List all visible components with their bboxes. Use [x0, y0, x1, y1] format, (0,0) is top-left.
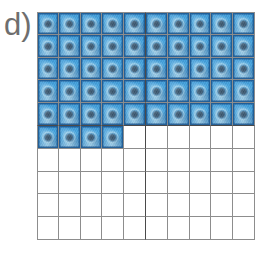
grid-cell-empty[interactable] — [102, 172, 124, 195]
grid-cell-filled[interactable] — [211, 103, 233, 126]
grid-cell-empty[interactable] — [211, 149, 233, 172]
grid-cell-empty[interactable] — [37, 172, 59, 195]
grid-cell-empty[interactable] — [124, 126, 146, 149]
grid-cell-filled[interactable] — [37, 12, 59, 35]
grid-cell-filled[interactable] — [124, 80, 146, 103]
grid-cell-empty[interactable] — [190, 217, 212, 240]
grid-cell-empty[interactable] — [124, 194, 146, 217]
grid-cell-filled[interactable] — [190, 58, 212, 81]
grid-cell-filled[interactable] — [211, 35, 233, 58]
grid-cell-filled[interactable] — [37, 103, 59, 126]
grid-cell-empty[interactable] — [59, 149, 81, 172]
grid-cell-filled[interactable] — [190, 103, 212, 126]
grid-cell-filled[interactable] — [146, 103, 168, 126]
grid-cell-empty[interactable] — [146, 172, 168, 195]
grid-cell-filled[interactable] — [59, 80, 81, 103]
grid-cell-filled[interactable] — [211, 80, 233, 103]
grid-cell-filled[interactable] — [37, 80, 59, 103]
grid-cell-empty[interactable] — [146, 149, 168, 172]
grid-cell-filled[interactable] — [168, 58, 190, 81]
grid-cell-filled[interactable] — [211, 12, 233, 35]
grid-cell-filled[interactable] — [102, 12, 124, 35]
grid-cell-filled[interactable] — [59, 58, 81, 81]
grid-cell-filled[interactable] — [190, 35, 212, 58]
grid-cell-empty[interactable] — [233, 126, 255, 149]
grid-cell-empty[interactable] — [168, 194, 190, 217]
grid-cell-empty[interactable] — [211, 126, 233, 149]
grid-cell-empty[interactable] — [59, 194, 81, 217]
grid-cell-empty[interactable] — [190, 126, 212, 149]
grid-cell-empty[interactable] — [211, 172, 233, 195]
grid-cell-filled[interactable] — [233, 12, 255, 35]
grid-cell-filled[interactable] — [102, 58, 124, 81]
grid-cell-empty[interactable] — [211, 194, 233, 217]
grid-cell-empty[interactable] — [190, 172, 212, 195]
grid-cell-filled[interactable] — [190, 80, 212, 103]
grid-cell-empty[interactable] — [233, 172, 255, 195]
grid-cell-empty[interactable] — [146, 194, 168, 217]
grid-cell-empty[interactable] — [102, 217, 124, 240]
grid-cell-empty[interactable] — [102, 149, 124, 172]
grid-cell-empty[interactable] — [81, 217, 103, 240]
grid-cell-filled[interactable] — [81, 103, 103, 126]
grid-cell-filled[interactable] — [81, 35, 103, 58]
grid-cell-filled[interactable] — [211, 58, 233, 81]
grid-cell-filled[interactable] — [233, 80, 255, 103]
grid-cell-filled[interactable] — [168, 103, 190, 126]
grid-cell-empty[interactable] — [168, 149, 190, 172]
grid-cell-empty[interactable] — [37, 217, 59, 240]
grid-cell-filled[interactable] — [233, 103, 255, 126]
grid-cell-filled[interactable] — [146, 80, 168, 103]
grid-cell-filled[interactable] — [81, 58, 103, 81]
grid-cell-empty[interactable] — [168, 172, 190, 195]
grid-cell-empty[interactable] — [190, 149, 212, 172]
grid-cell-filled[interactable] — [37, 58, 59, 81]
grid-cell-empty[interactable] — [37, 194, 59, 217]
grid-cell-filled[interactable] — [146, 12, 168, 35]
grid-cell-filled[interactable] — [81, 126, 103, 149]
grid-cell-empty[interactable] — [59, 217, 81, 240]
grid-cell-filled[interactable] — [146, 58, 168, 81]
grid-cell-filled[interactable] — [37, 35, 59, 58]
grid-cell-empty[interactable] — [81, 194, 103, 217]
grid-cell-empty[interactable] — [211, 217, 233, 240]
grid-cell-filled[interactable] — [124, 35, 146, 58]
grid-cell-filled[interactable] — [102, 35, 124, 58]
grid-cell-filled[interactable] — [102, 126, 124, 149]
grid-cell-empty[interactable] — [168, 126, 190, 149]
grid-cell-filled[interactable] — [59, 126, 81, 149]
grid-cell-filled[interactable] — [124, 103, 146, 126]
grid-cell-filled[interactable] — [168, 35, 190, 58]
grid-cell-empty[interactable] — [168, 217, 190, 240]
grid-cell-filled[interactable] — [37, 126, 59, 149]
grid-cell-empty[interactable] — [233, 217, 255, 240]
grid-cell-empty[interactable] — [233, 194, 255, 217]
grid-cell-filled[interactable] — [59, 103, 81, 126]
grid-cell-filled[interactable] — [124, 12, 146, 35]
grid-cell-filled[interactable] — [146, 35, 168, 58]
grid-cell-filled[interactable] — [190, 12, 212, 35]
grid-cell-filled[interactable] — [168, 80, 190, 103]
grid-cell-empty[interactable] — [124, 172, 146, 195]
grid-cell-empty[interactable] — [102, 194, 124, 217]
grid-cell-empty[interactable] — [190, 194, 212, 217]
grid-cell-empty[interactable] — [146, 217, 168, 240]
grid-cell-empty[interactable] — [146, 126, 168, 149]
grid-cell-empty[interactable] — [124, 149, 146, 172]
grid-cell-empty[interactable] — [233, 149, 255, 172]
grid-cell-filled[interactable] — [102, 80, 124, 103]
grid-cell-filled[interactable] — [233, 35, 255, 58]
grid-cell-filled[interactable] — [81, 80, 103, 103]
grid-cell-empty[interactable] — [124, 217, 146, 240]
grid-cell-filled[interactable] — [59, 12, 81, 35]
grid-cell-filled[interactable] — [168, 12, 190, 35]
grid-cell-empty[interactable] — [59, 172, 81, 195]
grid-cell-filled[interactable] — [59, 35, 81, 58]
grid-cell-filled[interactable] — [102, 103, 124, 126]
grid-cell-filled[interactable] — [233, 58, 255, 81]
grid-cell-filled[interactable] — [124, 58, 146, 81]
grid-cell-empty[interactable] — [81, 149, 103, 172]
grid-cell-filled[interactable] — [81, 12, 103, 35]
grid-cell-empty[interactable] — [37, 149, 59, 172]
grid-cell-empty[interactable] — [81, 172, 103, 195]
